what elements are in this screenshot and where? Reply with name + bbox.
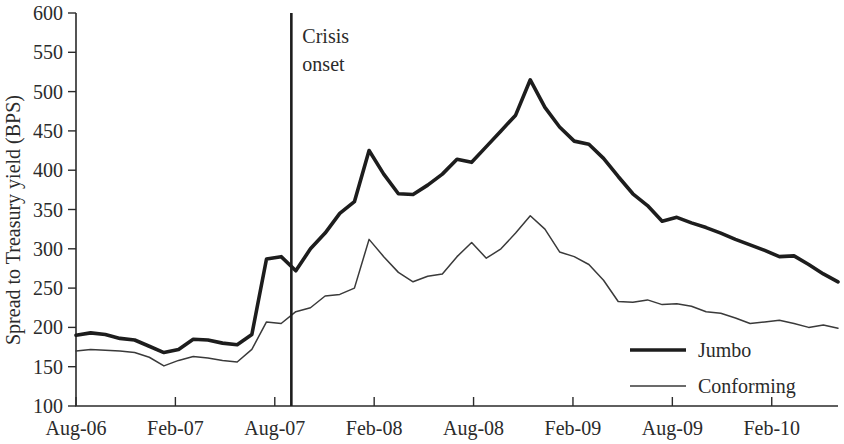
x-axis-ticks: Aug-06Feb-07Aug-07Feb-08Aug-08Feb-09Aug-… <box>45 397 800 440</box>
spread-to-treasury-line-chart: Spread to Treasury yield (BPS) 100150200… <box>0 0 844 444</box>
x-tick-label: Aug-08 <box>443 417 504 440</box>
chart-figure: Spread to Treasury yield (BPS) 100150200… <box>0 0 844 444</box>
chart-legend: Jumbo Conforming <box>630 339 796 398</box>
y-tick-label: 450 <box>33 120 63 142</box>
y-tick-label: 250 <box>33 277 63 299</box>
y-tick-label: 300 <box>33 238 63 260</box>
crisis-onset-label-line1: Crisis <box>302 25 349 47</box>
x-tick-label: Feb-07 <box>147 417 204 439</box>
y-axis-title: Spread to Treasury yield (BPS) <box>2 95 25 345</box>
x-tick-label: Feb-09 <box>545 417 602 439</box>
y-tick-label: 600 <box>33 2 63 24</box>
x-tick-label: Aug-09 <box>642 417 703 440</box>
crisis-onset-label-line2: onset <box>302 53 345 75</box>
y-axis-ticks: 100150200250300350400450500550600 <box>33 2 76 417</box>
series-line-jumbo <box>76 80 838 353</box>
y-tick-label: 350 <box>33 199 63 221</box>
x-tick-label: Feb-10 <box>743 417 800 439</box>
y-tick-label: 550 <box>33 41 63 63</box>
x-tick-label: Aug-07 <box>244 417 305 440</box>
legend-label-jumbo: Jumbo <box>698 339 751 361</box>
annotation-group: Crisis onset <box>291 13 349 406</box>
y-tick-label: 400 <box>33 159 63 181</box>
data-series-group <box>76 80 838 366</box>
x-tick-label: Feb-08 <box>346 417 403 439</box>
y-tick-label: 100 <box>33 395 63 417</box>
legend-label-conforming: Conforming <box>698 375 796 398</box>
y-tick-label: 150 <box>33 356 63 378</box>
y-tick-label: 200 <box>33 316 63 338</box>
x-tick-label: Aug-06 <box>45 417 106 440</box>
y-tick-label: 500 <box>33 81 63 103</box>
